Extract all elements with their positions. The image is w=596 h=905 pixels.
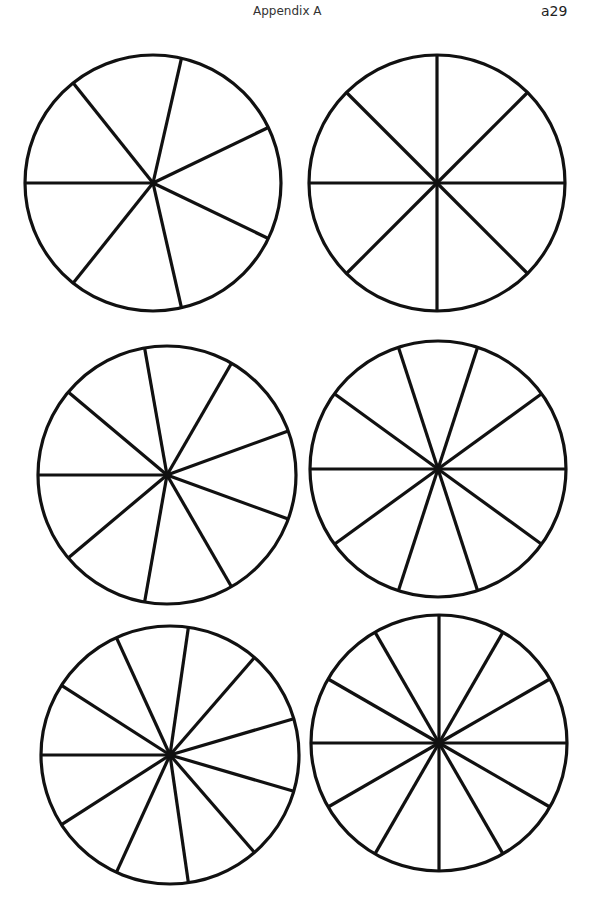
center-point xyxy=(435,466,441,472)
fraction-circle-7 xyxy=(25,55,281,311)
center-point xyxy=(434,180,440,186)
fraction-circle-8 xyxy=(309,55,565,311)
center-point xyxy=(164,472,170,478)
center-point xyxy=(436,740,442,746)
center-point xyxy=(150,180,156,186)
fraction-circle-9 xyxy=(38,346,296,604)
fraction-circle-10 xyxy=(310,341,566,597)
center-point xyxy=(167,752,173,758)
fraction-circle-11 xyxy=(41,626,299,884)
fraction-circles xyxy=(0,0,596,905)
fraction-circle-12 xyxy=(311,615,567,871)
